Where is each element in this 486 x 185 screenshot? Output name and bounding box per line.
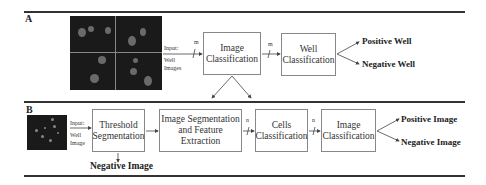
- connector-arrows: [0, 0, 486, 185]
